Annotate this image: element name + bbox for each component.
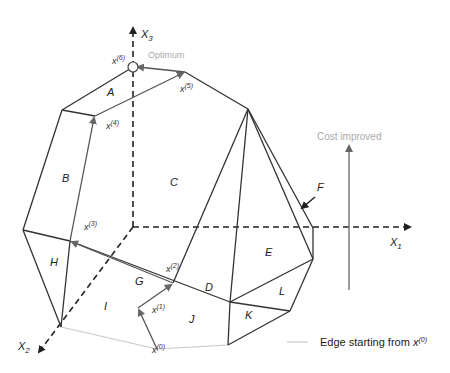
face-label-e: E [265,246,273,258]
face-label-j: J [188,313,195,325]
face-label-l: L [279,285,285,297]
face-label-k: K [245,309,253,321]
legend-text: Edge starting from x(0) [320,336,427,348]
optimum-vertex-icon [128,62,138,72]
face-label-a: A [106,86,114,98]
vertex-label-x6: x(6) [111,54,125,66]
vertex-label-x5: x(5) [179,82,193,94]
face-label-h: H [50,256,58,268]
light-edges [61,327,228,349]
face-label-i: I [104,300,107,312]
x2-axis-label: X2 [17,340,30,355]
vertex-label-x3: x(3) [83,220,97,232]
face-label-f: F [317,181,325,193]
vertex-label-x4: x(4) [105,119,119,131]
face-label-g: G [135,275,144,287]
simplex-path [70,67,185,349]
x3-axis-label: X3 [140,28,153,43]
face-f-pointer-arrow [302,197,315,208]
path-x5-x6 [138,67,185,72]
x1-axis-label: X1 [389,236,402,251]
face-label-d: D [205,281,213,293]
vertex-label-x0: x(0) [151,343,165,355]
path-x0-x1 [139,310,157,349]
face-label-b: B [62,172,69,184]
face-label-c: C [170,176,178,188]
simplex-polytope-diagram: X3 X1 X2 A B C D E F G H I J K L x(0) x(… [0,0,450,373]
path-x2-x3 [72,242,173,283]
axes [39,28,410,352]
polytope-edges [23,67,313,345]
cost-improved-label: Cost improved [317,131,381,142]
vertex-label-x1: x(1) [151,303,165,315]
optimum-label: Optimum [148,50,185,60]
